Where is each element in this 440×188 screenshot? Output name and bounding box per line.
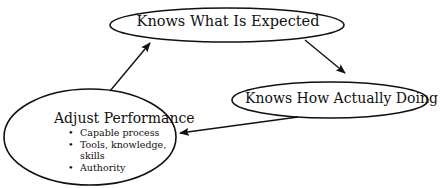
node-adjust-label: Adjust Performance	[54, 110, 195, 126]
edge-expected-to-actual	[305, 40, 345, 73]
node-expected-label: Knows What Is Expected	[123, 13, 333, 29]
bullet-item: Tools, knowledge,	[68, 139, 166, 151]
adjust-bullet-list: Capable process Tools, knowledge, skills…	[68, 127, 166, 173]
bullet-item: Capable process	[68, 127, 166, 139]
edge-adjust-to-expected	[110, 43, 150, 91]
edge-actual-to-adjust	[180, 117, 298, 133]
bullet-item: Authority	[68, 162, 166, 174]
node-actual-label: Knows How Actually Doing	[245, 90, 425, 106]
bullet-item-continuation: skills	[68, 150, 166, 162]
